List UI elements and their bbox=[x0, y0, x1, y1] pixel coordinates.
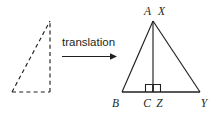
right-angle-mark-left-icon bbox=[146, 85, 154, 93]
apex-label-a: A bbox=[143, 5, 152, 17]
preimage-triangle bbox=[12, 21, 50, 92]
apex-label-x: X bbox=[157, 5, 166, 17]
foot-label-z: Z bbox=[156, 97, 163, 109]
translation-figure: A X B C Z Y translation bbox=[0, 0, 221, 115]
figure-canvas: A X B C Z Y translation bbox=[0, 0, 221, 115]
foot-label-c: C bbox=[143, 97, 151, 109]
right-angle-mark-right-icon bbox=[153, 85, 161, 93]
image-triangle bbox=[122, 21, 200, 92]
arrow-head-icon bbox=[110, 53, 117, 59]
image-right-edge bbox=[153, 21, 200, 92]
vertex-label-y: Y bbox=[201, 97, 209, 109]
image-left-edge bbox=[122, 21, 153, 92]
translation-label: translation bbox=[62, 36, 115, 48]
translation-arrow bbox=[62, 53, 117, 59]
preimage-hypotenuse-edge bbox=[12, 21, 50, 92]
vertex-label-b: B bbox=[112, 97, 119, 109]
